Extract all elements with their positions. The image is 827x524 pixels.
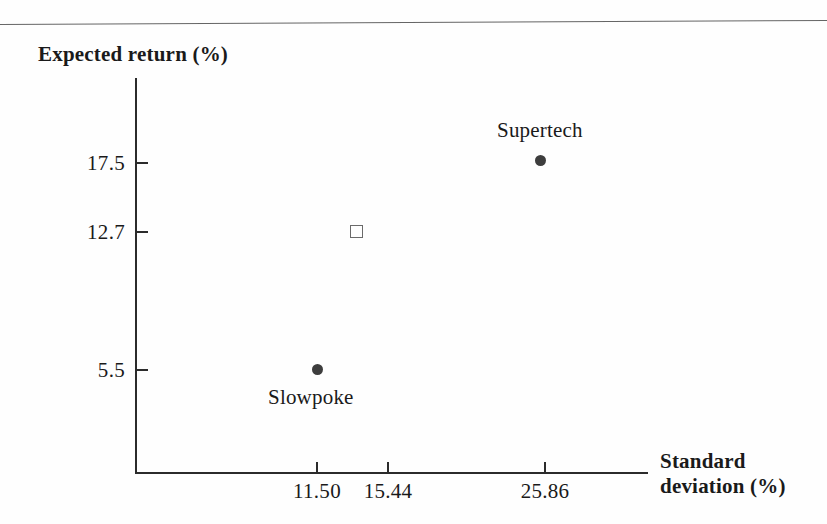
y-axis-line [135,78,137,474]
x-axis-tick-label-25-86: 25.86 [490,481,600,502]
data-point-label-supertech: Supertech [497,120,583,141]
x-axis-title-line-2: deviation (%) [660,474,820,499]
risk-return-scatter-figure: 17.5 12.7 5.5 11.50 15.44 25.86 Expected… [0,0,827,524]
data-point-portfolio [350,225,363,238]
x-axis-tick-label-15-44: 15.44 [333,481,443,502]
data-point-slowpoke [312,364,323,375]
x-axis-tick-11-50 [316,462,318,473]
y-axis-tick-label-17-5: 17.5 [55,153,125,174]
y-axis-tick-12-7 [137,231,148,233]
x-axis-title-line-1: Standard [660,449,820,474]
data-point-supertech [535,155,546,166]
y-axis-tick-label-12-7: 12.7 [55,222,125,243]
y-axis-tick-17-5 [137,162,148,164]
x-axis-tick-15-44 [387,462,389,473]
x-axis-line [135,472,648,474]
y-axis-tick-5-5 [137,369,148,371]
data-point-label-slowpoke: Slowpoke [268,387,354,408]
y-axis-title: Expected return (%) [38,42,228,67]
x-axis-title: Standard deviation (%) [660,449,820,499]
page-top-rule [0,20,827,25]
x-axis-tick-25-86 [544,462,546,473]
y-axis-tick-label-5-5: 5.5 [55,360,125,381]
